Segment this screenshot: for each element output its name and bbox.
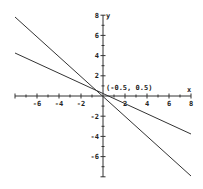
x-tick-label: -6	[33, 100, 41, 108]
x-tick-label: 4	[145, 100, 149, 108]
x-tick-label: -2	[77, 100, 85, 108]
y-tick-label: 2	[95, 72, 99, 80]
x-tick-label: -4	[55, 100, 63, 108]
x-tick-label: 8	[189, 100, 193, 108]
y-tick-label: -4	[91, 133, 99, 141]
x-tick-label: 6	[167, 100, 171, 108]
y-tick-label: 8	[95, 12, 99, 20]
x-tick-label: 2	[123, 100, 127, 108]
y-tick-label: -2	[91, 113, 99, 121]
y-tick-label: -6	[91, 153, 99, 161]
y-tick-label: 6	[95, 32, 99, 40]
y-tick-label: 4	[95, 52, 99, 60]
point-annotation: (-0.5, 0.5)	[106, 84, 152, 92]
coordinate-plane: x y (-0.5, 0.5) -6-4-22468 8642-2-4-6	[0, 0, 203, 189]
x-tick-labels: -6-4-22468	[33, 100, 193, 108]
y-axis-label: y	[106, 12, 111, 20]
x-axis-label: x	[187, 86, 192, 94]
